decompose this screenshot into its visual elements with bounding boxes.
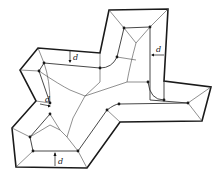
vertex xyxy=(32,150,35,153)
inner-offset-right-arm xyxy=(107,81,188,110)
offset-label: d xyxy=(73,53,78,62)
vertex xyxy=(29,136,32,139)
vertex xyxy=(49,113,52,116)
vertex xyxy=(43,62,46,65)
skeleton-edges xyxy=(12,9,211,168)
vertex xyxy=(99,67,102,70)
offset-polygon-diagram: d d d d xyxy=(0,0,217,178)
inner-offset-right-arm-bottom xyxy=(119,103,188,104)
inner-offset-polygon xyxy=(124,27,150,100)
vertex xyxy=(38,70,41,73)
vertex xyxy=(116,56,119,59)
vertex xyxy=(123,27,126,30)
offset-label: d xyxy=(58,157,63,166)
outer-polygon xyxy=(12,9,211,168)
vertex xyxy=(149,26,152,29)
offset-annotation-top-right: d xyxy=(151,45,164,57)
vertex xyxy=(118,103,121,106)
offset-annotation-bottom: d xyxy=(54,152,64,166)
vertex xyxy=(106,109,109,112)
offset-annotation-top-left: d xyxy=(69,51,79,63)
vertex xyxy=(187,102,190,105)
vertex xyxy=(147,81,150,84)
offset-label: d xyxy=(45,95,50,104)
offset-label: d xyxy=(156,45,161,54)
vertex xyxy=(163,99,166,102)
inner-offset-bottom xyxy=(30,110,107,151)
inner-offset-top-arm-left xyxy=(39,28,124,103)
vertex xyxy=(77,150,80,153)
offset-annotation-left-notch: d xyxy=(40,95,51,108)
